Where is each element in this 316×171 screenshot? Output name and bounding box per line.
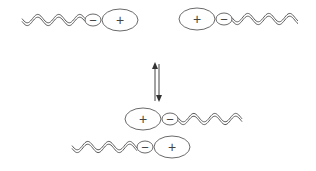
positive-charge-head: + [102,9,138,31]
minus-sign: − [141,140,149,155]
positive-charge-head: + [154,136,190,158]
negative-charge-head: − [137,140,153,155]
molecule-top-right: −+ [179,8,298,30]
plus-sign: + [139,111,147,127]
positive-charge-head: + [125,108,161,130]
hydrocarbon-tail [72,141,137,152]
negative-charge-head: − [216,12,232,27]
hydrocarbon-tail [232,13,298,24]
hydrocarbon-tail [22,14,85,25]
hydrocarbon-tail [178,113,242,124]
negative-charge-head: − [85,13,101,28]
molecule-pair-top: −+ [125,108,242,130]
minus-sign: − [89,13,97,28]
diagram-canvas: −+−+−+−+ [0,0,316,171]
positive-charge-head: + [179,8,215,30]
molecules-group: −+−+−+−+ [22,8,298,158]
arrow-down-icon [156,95,162,102]
negative-charge-head: − [162,112,178,127]
plus-sign: + [193,11,201,27]
plus-sign: + [116,12,124,28]
minus-sign: − [220,12,228,27]
zwitterion-association-diagram: −+−+−+−+ [0,0,316,171]
plus-sign: + [168,139,176,155]
arrow-up-icon [152,62,158,69]
molecule-pair-bottom: −+ [72,136,190,158]
equilibrium-arrow [152,62,162,102]
minus-sign: − [166,112,174,127]
molecule-top-left: −+ [22,9,138,31]
